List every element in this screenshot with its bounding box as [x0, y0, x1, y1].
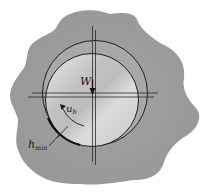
load-label: W	[80, 75, 93, 88]
journal-circle	[46, 54, 139, 147]
velocity-label-sub: b	[72, 108, 76, 116]
journal-bearing-diagram: W ub hmin	[0, 0, 207, 192]
min-film-label-main: h	[28, 138, 35, 151]
min-film-label-sub: min	[35, 144, 47, 152]
